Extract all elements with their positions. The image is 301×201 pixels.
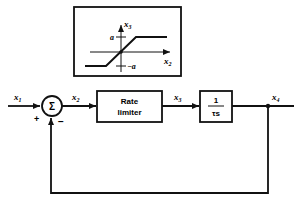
integrator-numerator: 1	[214, 96, 219, 105]
summing-junction: Σ + −	[34, 96, 64, 127]
plus-sign: +	[34, 114, 39, 124]
rate-limiter-line2: limiter	[117, 108, 141, 117]
sigma-symbol: Σ	[49, 101, 55, 112]
x2-label: x2	[71, 92, 80, 103]
x3-label: x3	[173, 92, 182, 103]
block-diagram: x3 x2 a −a x1 Σ + − x2 Rate limiter x3 1…	[0, 0, 301, 201]
origin-dot	[119, 50, 123, 54]
inset-characteristic: x3 x2 a −a	[74, 7, 181, 76]
x1-label: x1	[13, 92, 22, 103]
x3-axis-label: x3	[123, 19, 132, 30]
x4-label: x4	[271, 92, 280, 103]
minus-sign: −	[58, 116, 64, 127]
lower-level-label: −a	[127, 62, 136, 71]
rate-limiter-line1: Rate	[121, 97, 139, 106]
upper-level-label: a	[110, 33, 114, 42]
integrator-denominator: τs	[212, 109, 221, 118]
integrator-block: 1 τs	[200, 91, 232, 122]
rate-limiter-block: Rate limiter	[97, 91, 162, 122]
x2-axis-label: x2	[163, 56, 172, 67]
